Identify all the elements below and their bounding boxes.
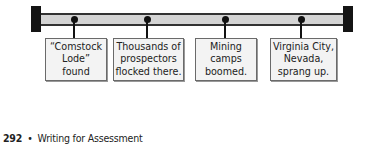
event-text-line: flocked there. xyxy=(116,66,182,79)
event-text-line: camps xyxy=(210,53,242,66)
bullet-icon: • xyxy=(27,132,32,144)
timeline-event-box: Mining camps boomed. xyxy=(195,38,257,81)
event-text-line: found xyxy=(62,66,90,79)
event-text-line: Virginia City, xyxy=(273,41,334,54)
page-footer: 292•Writing for Assessment xyxy=(3,132,142,144)
timeline-event-box: Thousands of prospectors flocked there. xyxy=(113,38,184,81)
timeline-event-box: “Comstock Lode” found xyxy=(45,38,107,81)
event-text-line: prospectors xyxy=(120,53,177,66)
event-text-line: “Comstock xyxy=(50,41,102,54)
event-text-line: Thousands of xyxy=(116,41,180,54)
timeline-start-cap xyxy=(31,6,41,32)
event-text-line: Lode” xyxy=(62,53,90,66)
timeline-end-cap xyxy=(343,6,353,32)
timeline-event-box: Virginia City, Nevada, sprang up. xyxy=(270,38,337,81)
event-text-line: sprang up. xyxy=(278,66,329,79)
event-text-line: boomed. xyxy=(205,66,247,79)
page-number: 292 xyxy=(3,132,22,144)
event-text-line: Nevada, xyxy=(284,53,324,66)
event-text-line: Mining xyxy=(210,41,242,54)
section-title: Writing for Assessment xyxy=(38,132,143,144)
